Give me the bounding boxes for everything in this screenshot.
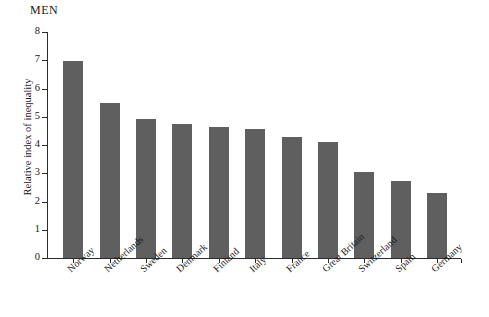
x-axis-end-tick: [461, 259, 462, 263]
chart-title: MEN: [30, 3, 58, 18]
y-tick-label: 0: [14, 251, 40, 262]
y-tick-label: 6: [14, 82, 40, 93]
y-tick-label: 5: [14, 110, 40, 121]
plot-area: [47, 32, 460, 258]
bar: [282, 137, 302, 258]
bar: [318, 142, 338, 258]
bar: [245, 129, 265, 258]
bar: [63, 61, 83, 258]
y-tick-label: 2: [14, 195, 40, 206]
y-tick-label: 8: [14, 25, 40, 36]
y-tick-mark: [42, 258, 47, 259]
y-tick-label: 4: [14, 138, 40, 149]
bar: [172, 124, 192, 258]
y-tick-label: 1: [14, 223, 40, 234]
bar: [100, 103, 120, 258]
bar-chart-figure: MEN Relative index of inequality 8765432…: [0, 0, 489, 317]
bar: [427, 193, 447, 258]
y-tick-label: 3: [14, 166, 40, 177]
y-tick-label: 7: [14, 53, 40, 64]
bar: [209, 127, 229, 258]
